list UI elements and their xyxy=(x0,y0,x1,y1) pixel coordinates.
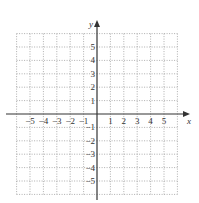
x-tick-label: 3 xyxy=(135,116,140,126)
y-tick-label: −5 xyxy=(85,176,95,186)
x-tick-label: −5 xyxy=(25,116,35,126)
y-tick-label: −2 xyxy=(85,136,95,146)
y-axis-label: y xyxy=(88,19,93,29)
x-tick-label: 2 xyxy=(122,116,127,126)
y-tick-label: 1 xyxy=(91,96,96,106)
y-tick-label: 5 xyxy=(91,42,96,52)
x-tick-label: 1 xyxy=(108,116,113,126)
y-tick-label: 2 xyxy=(91,82,96,92)
x-tick-label: −2 xyxy=(65,116,75,126)
y-tick-label: −1 xyxy=(85,122,95,132)
axes: x y xyxy=(6,19,191,200)
y-axis-arrow-icon xyxy=(94,20,100,27)
x-tick-labels: −5−4−3−2−112345 xyxy=(25,116,167,126)
x-axis-label: x xyxy=(186,116,191,126)
y-tick-label: 3 xyxy=(91,69,96,79)
x-tick-label: 4 xyxy=(148,116,153,126)
y-tick-label: −3 xyxy=(85,149,95,159)
y-tick-label: 4 xyxy=(91,55,96,65)
coordinate-plane: x y −5−4−3−2−112345 54321−1−2−3−4−5 xyxy=(0,0,199,203)
x-tick-label: −4 xyxy=(39,116,49,126)
x-tick-label: −3 xyxy=(52,116,62,126)
x-tick-label: 5 xyxy=(162,116,167,126)
y-tick-label: −4 xyxy=(85,163,95,173)
